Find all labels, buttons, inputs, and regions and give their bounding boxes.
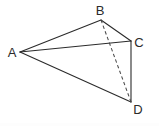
edge-bd-hidden: [101, 20, 131, 102]
edge-bc: [101, 20, 131, 41]
edge-ad: [20, 52, 131, 102]
bottom-margin-band: [0, 123, 159, 126]
edge-ab: [20, 20, 101, 52]
geometry-figure: A B C D: [0, 0, 159, 126]
tetrahedron-drawing: A B C D: [0, 0, 159, 126]
vertex-label-c: C: [134, 35, 143, 50]
vertex-label-b: B: [96, 3, 105, 18]
vertex-label-a: A: [8, 45, 17, 60]
vertex-label-d: D: [133, 102, 142, 117]
edge-ac: [20, 41, 131, 52]
